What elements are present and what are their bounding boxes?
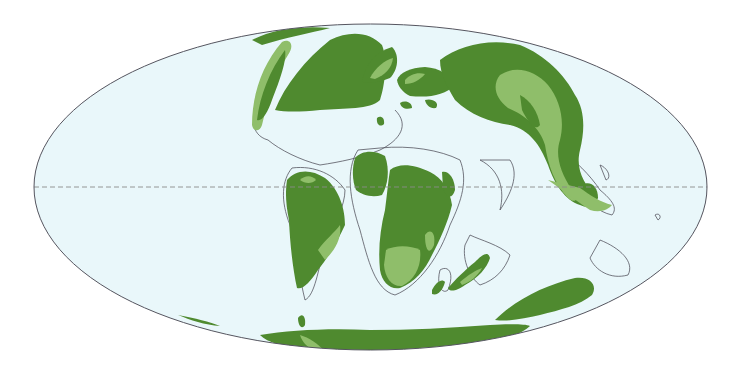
paleogeographic-world-map	[0, 0, 739, 370]
